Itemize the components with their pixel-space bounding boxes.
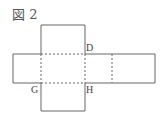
net-outline — [13, 25, 155, 111]
label-d: D — [86, 42, 93, 53]
label-h: H — [86, 84, 93, 95]
label-g: G — [31, 84, 38, 95]
cube-net-diagram — [0, 0, 163, 121]
